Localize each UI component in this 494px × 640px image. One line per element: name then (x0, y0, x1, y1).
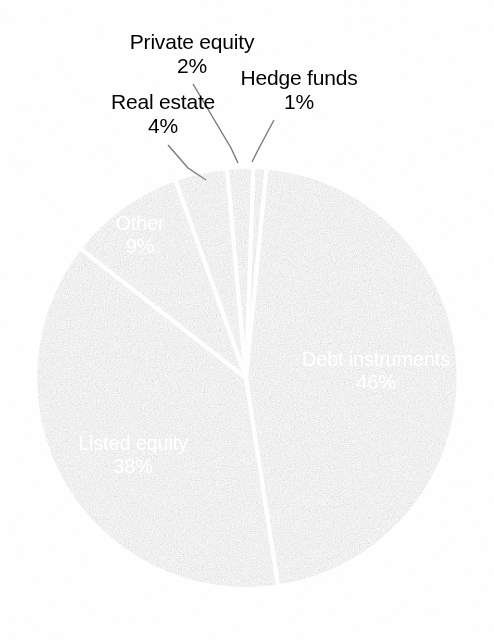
pie-label-debt-instruments-value: 46% (288, 371, 464, 394)
pie-label-debt-instruments: Debt instruments 46% (288, 348, 464, 394)
pie-label-hedge-funds-name: Hedge funds (241, 66, 358, 89)
pie-label-listed-equity-name: Listed equity (78, 432, 188, 454)
pie-label-real-estate-name: Real estate (111, 90, 215, 113)
pie-label-listed-equity: Listed equity 38% (48, 432, 218, 478)
pie-label-debt-instruments-name: Debt instruments (302, 348, 450, 370)
pie-label-real-estate: Real estate 4% (80, 90, 246, 137)
pie-label-other-name: Other (115, 212, 164, 234)
pie-label-other-value: 9% (92, 235, 188, 258)
pie-chart: Private equity 2% Hedge funds 1% Real es… (0, 0, 494, 640)
pie-label-real-estate-value: 4% (80, 114, 246, 138)
pie-label-listed-equity-value: 38% (48, 455, 218, 478)
pie-label-private-equity-name: Private equity (130, 30, 254, 53)
pie-label-other: Other 9% (92, 212, 188, 258)
